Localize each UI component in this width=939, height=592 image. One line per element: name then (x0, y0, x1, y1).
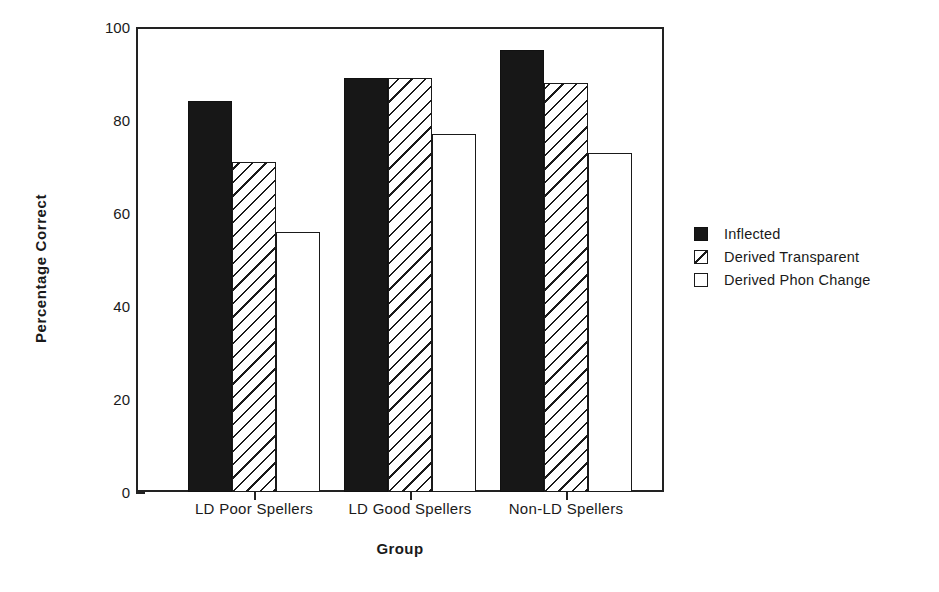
y-tick-label-40: 40 (90, 299, 130, 314)
x-axis-title: Group (136, 540, 664, 557)
bar-derived-phon-change-ld-good-spellers (432, 134, 476, 492)
x-tick-label-ld-good-spellers: LD Good Spellers (348, 500, 471, 517)
hatched-square-icon (694, 250, 708, 264)
bar-inflected-ld-good-spellers (344, 78, 388, 492)
y-tick-label-20: 20 (90, 392, 130, 407)
bar-derived-phon-change-ld-poor-spellers (276, 232, 320, 492)
bar-inflected-non-ld-spellers (500, 50, 544, 492)
bars-layer (136, 27, 664, 492)
y-axis-tick-labels: 100 80 60 40 20 0 (86, 0, 130, 592)
legend-item-inflected: Inflected (694, 222, 870, 245)
bar-derived-transparent-ld-good-spellers (388, 78, 432, 492)
x-tick-non-ld-spellers (566, 492, 568, 500)
bar-chart-figure: Percentage Correct 100 80 60 40 20 0 (0, 0, 939, 592)
legend-item-derived-phon-change: Derived Phon Change (694, 268, 870, 291)
open-square-icon (694, 273, 708, 287)
bar-derived-transparent-non-ld-spellers (544, 83, 588, 492)
y-tick-label-80: 80 (90, 113, 130, 128)
chart-legend: Inflected Derived Transparent Derived Ph… (694, 222, 870, 291)
y-tick-label-60: 60 (90, 206, 130, 221)
y-axis-title: Percentage Correct (32, 159, 49, 379)
x-tick-ld-poor-spellers (254, 492, 256, 500)
legend-label-inflected: Inflected (724, 226, 781, 242)
y-tick-major-0 (136, 492, 145, 494)
bar-derived-transparent-ld-poor-spellers (232, 162, 276, 492)
y-tick-label-100: 100 (90, 20, 130, 35)
solid-black-square-icon (694, 227, 708, 241)
x-tick-label-non-ld-spellers: Non-LD Spellers (509, 500, 624, 517)
x-tick-ld-good-spellers (410, 492, 412, 500)
y-tick-label-0: 0 (90, 485, 130, 500)
x-tick-label-ld-poor-spellers: LD Poor Spellers (195, 500, 313, 517)
bar-inflected-ld-poor-spellers (188, 101, 232, 492)
legend-item-derived-transparent: Derived Transparent (694, 245, 870, 268)
legend-label-derived-phon-change: Derived Phon Change (724, 272, 870, 288)
bar-derived-phon-change-non-ld-spellers (588, 153, 632, 492)
legend-label-derived-transparent: Derived Transparent (724, 249, 859, 265)
